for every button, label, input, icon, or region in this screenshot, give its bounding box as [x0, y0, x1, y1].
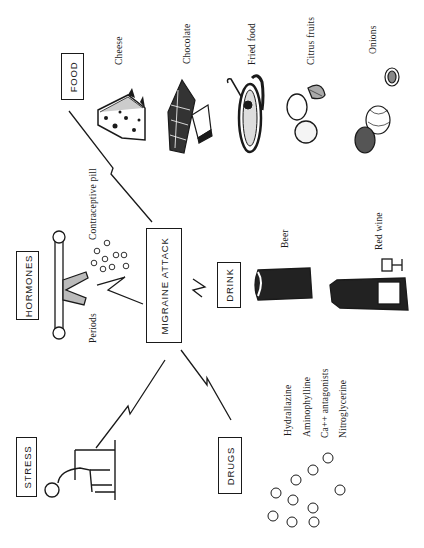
label-fried-food: Fried food — [247, 23, 257, 65]
cheese-icon — [98, 88, 145, 140]
label-cheese: Cheese — [114, 36, 124, 65]
drugs-label: DRUGS — [225, 446, 236, 484]
drugs-box: DRUGS — [218, 437, 242, 494]
food-box: FOOD — [61, 53, 84, 100]
fried-food-icon — [227, 76, 263, 152]
connector-drugs — [181, 350, 231, 420]
red-wine-icon — [330, 259, 408, 310]
stress-box: STRESS — [16, 437, 37, 497]
label-hydrallazine: Hydrallazine — [283, 385, 293, 436]
citrus-fruits-icon — [287, 85, 325, 143]
stress-label: STRESS — [21, 446, 32, 489]
connector-stress — [96, 360, 165, 448]
label-onions: Onions — [368, 25, 378, 54]
stress-figure-icon — [45, 440, 115, 500]
migraine-attack-box: MIGRAINE ATTACK — [146, 228, 182, 343]
drink-box: DRINK — [217, 262, 241, 308]
label-aminophylline: Aminophylline — [302, 377, 312, 437]
chocolate-icon — [168, 80, 212, 153]
label-contraceptive-pill: Contraceptive pill — [88, 168, 98, 240]
onions-icon — [355, 68, 399, 153]
label-chocolate: Chocolate — [182, 24, 192, 64]
connector-hormones — [97, 277, 143, 304]
hormones-figure-icon — [53, 231, 88, 339]
hormones-box: HORMONES — [16, 251, 39, 320]
contraceptive-pills-icon — [91, 240, 129, 272]
label-red-wine: Red wine — [374, 212, 384, 250]
connector-drink — [193, 279, 205, 297]
label-nitroglycerine: Nitroglycerine — [338, 380, 348, 438]
label-beer: Beer — [280, 229, 290, 248]
beer-icon — [255, 268, 312, 300]
label-citrus-fruits: Citrus fruits — [306, 17, 316, 65]
hormones-label: HORMONES — [22, 254, 33, 316]
migraine-attack-label: MIGRAINE ATTACK — [159, 237, 170, 334]
label-ca-antagonists: Ca++ antagonists — [320, 368, 330, 438]
food-label: FOOD — [67, 61, 78, 92]
drink-label: DRINK — [224, 268, 235, 302]
drug-pills-icon — [268, 453, 345, 527]
label-periods: Periods — [88, 313, 98, 343]
